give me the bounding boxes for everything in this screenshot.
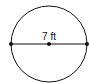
circle-diagram: 7 ft xyxy=(0,0,94,83)
diameter-label: 7 ft xyxy=(42,31,56,42)
center-dot xyxy=(47,42,51,46)
right-endpoint-dot xyxy=(85,42,89,46)
left-endpoint-dot xyxy=(9,42,13,46)
